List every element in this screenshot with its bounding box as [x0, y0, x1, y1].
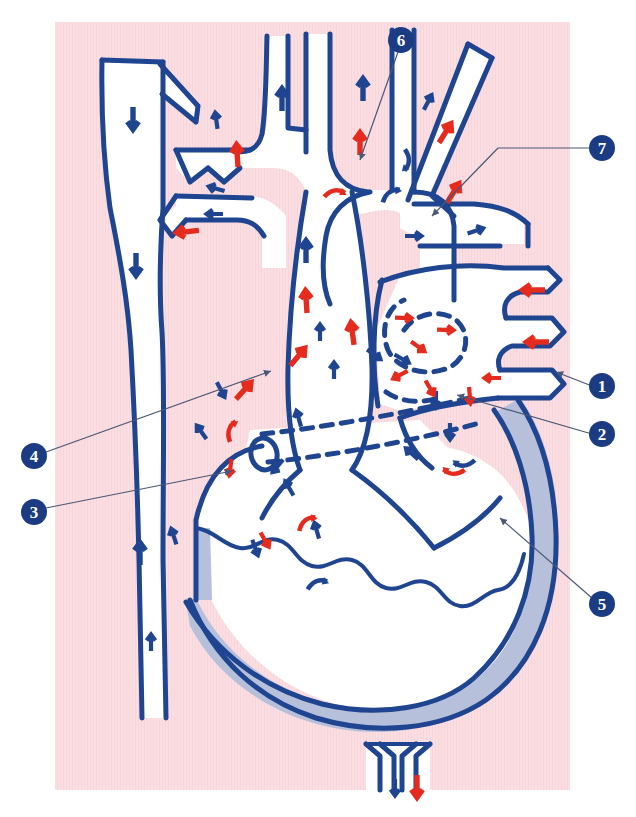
callout-5-text: 5 [598, 595, 607, 614]
svc-top [102, 60, 163, 62]
callout-4-text: 4 [30, 447, 39, 466]
callout-5[interactable]: 5 [589, 591, 615, 617]
callout-1-text: 1 [598, 377, 607, 396]
callout-7[interactable]: 7 [589, 135, 615, 161]
callout-3-text: 3 [30, 503, 39, 522]
branch-left-lower-top [176, 196, 252, 198]
callout-6[interactable]: 6 [388, 27, 414, 53]
callout-1[interactable]: 1 [589, 373, 615, 399]
figure-canvas: 1 2 3 4 5 6 7 [0, 0, 636, 817]
callout-7-text: 7 [598, 139, 607, 158]
callout-3[interactable]: 3 [21, 499, 47, 525]
callout-2-text: 2 [598, 425, 607, 444]
callout-6-text: 6 [397, 31, 406, 50]
heart-diagram-svg: 1 2 3 4 5 6 7 [0, 0, 636, 817]
callout-4[interactable]: 4 [21, 443, 47, 469]
callout-2[interactable]: 2 [589, 421, 615, 447]
